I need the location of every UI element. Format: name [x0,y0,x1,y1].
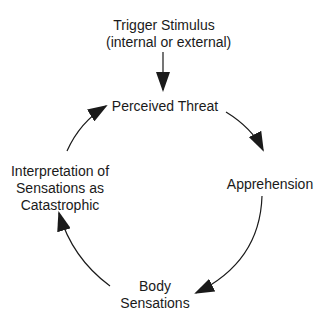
node-interpretation-line-1: Interpretation of [0,163,120,180]
node-body-sensations-line-2: Sensations [115,295,195,312]
edge-body-to-interpretation [59,213,110,286]
node-interpretation-line-2: Sensations as [0,180,120,197]
node-trigger-stimulus: Trigger Stimulus (internal or external) [106,17,222,51]
panic-cycle-diagram: Trigger Stimulus (internal or external) … [0,0,324,315]
node-perceived-threat-label: Perceived Threat [110,98,220,115]
node-apprehension: Apprehension [222,176,318,193]
node-trigger-line-2: (internal or external) [106,34,222,51]
node-interpretation-line-3: Catastrophic [0,197,120,214]
edge-interpretation-to-threat [67,106,106,151]
node-body-sensations-line-1: Body [115,278,195,295]
node-trigger-line-1: Trigger Stimulus [106,17,222,34]
node-apprehension-label: Apprehension [222,176,318,193]
node-body-sensations: Body Sensations [115,278,195,312]
edge-apprehension-to-body [196,196,262,293]
node-perceived-threat: Perceived Threat [110,98,220,115]
node-interpretation: Interpretation of Sensations as Catastro… [0,163,120,214]
edge-threat-to-apprehension [226,112,263,150]
